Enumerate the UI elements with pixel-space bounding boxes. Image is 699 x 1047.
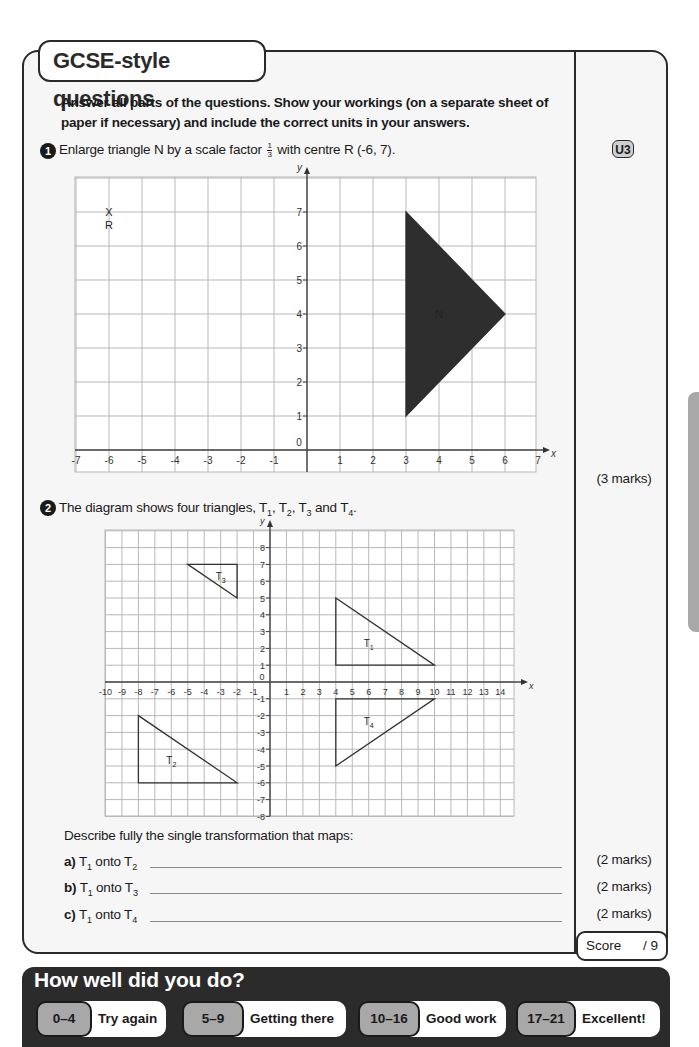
svg-text:6: 6 (366, 687, 371, 697)
svg-text:1: 1 (284, 687, 289, 697)
svg-text:2: 2 (300, 687, 305, 697)
svg-text:7: 7 (383, 687, 388, 697)
svg-text:-4: -4 (257, 745, 265, 755)
svg-text:-6: -6 (257, 778, 265, 788)
svg-text:10: 10 (429, 687, 439, 697)
band-5-9: 5–9 Getting there (182, 1001, 346, 1037)
band-10-16: 10–16 Good work (358, 1001, 506, 1037)
svg-text:8: 8 (399, 687, 404, 697)
svg-text:3: 3 (317, 687, 322, 697)
part-c: c) T1 onto T4 (64, 907, 137, 925)
band-0-4: 0–4 Try again (36, 1001, 166, 1037)
svg-text:8: 8 (260, 543, 265, 553)
svg-text:-5: -5 (257, 762, 265, 772)
question-2-prompt: Describe fully the single transformation… (64, 828, 353, 843)
svg-text:-8: -8 (257, 812, 265, 822)
svg-text:x: x (528, 681, 534, 691)
svg-text:3: 3 (260, 627, 265, 637)
svg-text:7: 7 (260, 560, 265, 570)
svg-text:y: y (259, 516, 265, 526)
answer-line-a[interactable] (150, 867, 562, 868)
svg-text:-2: -2 (233, 687, 241, 697)
part-b: b) T1 onto T3 (64, 880, 138, 898)
svg-text:-3: -3 (257, 728, 265, 738)
band-17-21: 17–21 Excellent! (516, 1001, 660, 1037)
svg-text:12: 12 (462, 687, 472, 697)
svg-text:2: 2 (260, 644, 265, 654)
svg-text:4: 4 (333, 687, 338, 697)
part-c-marks: (2 marks) (580, 906, 668, 921)
svg-text:-6: -6 (167, 687, 175, 697)
answer-line-c[interactable] (150, 921, 562, 922)
part-a-marks: (2 marks) (580, 852, 668, 867)
svg-text:-4: -4 (200, 687, 208, 697)
svg-text:0: 0 (259, 672, 264, 682)
svg-text:11: 11 (446, 687, 455, 697)
score-box: Score / 9 (576, 931, 668, 961)
svg-text:14: 14 (495, 687, 505, 697)
score-label: Score (586, 933, 621, 959)
part-b-marks: (2 marks) (580, 879, 668, 894)
svg-text:-3: -3 (217, 687, 225, 697)
svg-text:5: 5 (260, 594, 265, 604)
svg-text:-10: -10 (99, 687, 112, 697)
svg-text:13: 13 (479, 687, 489, 697)
svg-text:-1: -1 (257, 694, 265, 704)
answer-line-b[interactable] (150, 893, 562, 894)
svg-text:5: 5 (350, 687, 355, 697)
svg-text:4: 4 (260, 610, 265, 620)
svg-text:-5: -5 (184, 687, 192, 697)
svg-text:9: 9 (416, 687, 421, 697)
svg-text:1: 1 (260, 661, 265, 671)
svg-text:-7: -7 (257, 795, 265, 805)
svg-text:-2: -2 (257, 711, 265, 721)
score-total: / 9 (643, 933, 658, 959)
svg-text:-8: -8 (134, 687, 142, 697)
svg-text:6: 6 (260, 577, 265, 587)
part-a: a) T1 onto T2 (64, 854, 137, 872)
svg-text:-7: -7 (151, 687, 159, 697)
svg-text:-9: -9 (118, 687, 126, 697)
feedback-title: How well did you do? (34, 968, 245, 992)
